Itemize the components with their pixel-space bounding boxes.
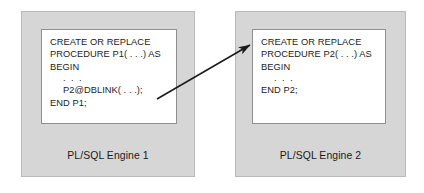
engine-label-left: PL/SQL Engine 1: [22, 150, 194, 161]
code-line: PROCEDURE P1( . . .) AS: [50, 48, 169, 60]
engine-box-right: CREATE OR REPLACE PROCEDURE P2( . . .) A…: [235, 11, 406, 177]
code-line: . . .: [261, 73, 378, 84]
code-line: BEGIN: [50, 61, 169, 73]
code-line: END P2;: [261, 84, 378, 96]
engine-box-left: CREATE OR REPLACE PROCEDURE P1( . . .) A…: [21, 11, 195, 177]
code-block-left: CREATE OR REPLACE PROCEDURE P1( . . .) A…: [41, 29, 177, 124]
engine-label-right: PL/SQL Engine 2: [236, 150, 405, 161]
code-block-right: CREATE OR REPLACE PROCEDURE P2( . . .) A…: [252, 29, 386, 124]
code-line: BEGIN: [261, 61, 378, 73]
code-line: END P1;: [50, 97, 169, 109]
diagram-canvas: CREATE OR REPLACE PROCEDURE P1( . . .) A…: [0, 0, 424, 193]
code-line: CREATE OR REPLACE: [261, 36, 378, 48]
code-line: P2@DBLINK( . . .);: [50, 84, 169, 96]
code-line: CREATE OR REPLACE: [50, 36, 169, 48]
code-line: . . .: [50, 73, 169, 84]
code-line: PROCEDURE P2( . . .) AS: [261, 48, 378, 60]
